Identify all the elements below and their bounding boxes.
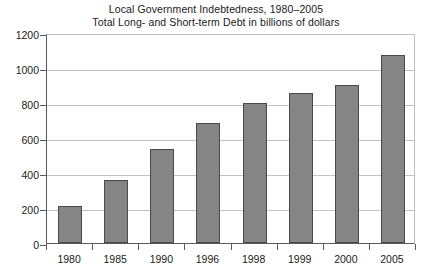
- bar-1998: [243, 103, 267, 243]
- bar-slot: [93, 35, 139, 243]
- y-tick-label: 600: [21, 134, 39, 146]
- x-tick-label: 1996: [184, 253, 230, 265]
- x-tick-2005: 2005: [369, 244, 415, 275]
- plot-area: [46, 34, 415, 244]
- x-axis: 19801985199019961998199920002005: [46, 244, 415, 275]
- bar-slot: [232, 35, 278, 243]
- y-axis: 020040060080010001200: [0, 34, 46, 245]
- x-tick-label: 2005: [369, 253, 415, 265]
- x-tick-1996: 1996: [184, 244, 230, 275]
- x-tick-1998: 1998: [231, 244, 277, 275]
- y-tick-label: 200: [21, 204, 39, 216]
- x-tick-label: 1985: [92, 253, 138, 265]
- x-tick-label: 1990: [138, 253, 184, 265]
- chart-title-block: Local Government Indebtedness, 1980–2005…: [0, 3, 432, 28]
- chart-title: Local Government Indebtedness, 1980–2005: [0, 3, 432, 16]
- x-tick-2000: 2000: [323, 244, 369, 275]
- x-tick-mark-origin: [46, 244, 47, 250]
- bars-layer: [47, 35, 414, 243]
- x-tick-1980: 1980: [46, 244, 92, 275]
- bar-slot: [278, 35, 324, 243]
- bar-slot: [47, 35, 93, 243]
- x-tick-1990: 1990: [138, 244, 184, 275]
- bar-1996: [196, 123, 220, 243]
- bar-1980: [58, 206, 82, 243]
- bar-chart: Local Government Indebtedness, 1980–2005…: [0, 0, 432, 275]
- x-tick-label: 1980: [46, 253, 92, 265]
- bar-1985: [104, 180, 128, 243]
- x-tick-label: 2000: [323, 253, 369, 265]
- y-tick-label: 1000: [16, 64, 39, 76]
- bar-2000: [335, 85, 359, 243]
- y-tick-label: 400: [21, 169, 39, 181]
- bar-slot: [324, 35, 370, 243]
- bar-slot: [185, 35, 231, 243]
- x-tick-1985: 1985: [92, 244, 138, 275]
- bar-2005: [381, 55, 405, 243]
- x-tick-mark: [415, 244, 416, 250]
- x-tick-label: 1998: [231, 253, 277, 265]
- bar-slot: [139, 35, 185, 243]
- chart-subtitle: Total Long- and Short-term Debt in billi…: [0, 16, 432, 29]
- bar-1999: [289, 93, 313, 244]
- y-tick-label: 1200: [16, 29, 39, 41]
- y-tick-label: 0: [33, 239, 39, 251]
- x-tick-label: 1999: [277, 253, 323, 265]
- y-tick-label: 800: [21, 99, 39, 111]
- bar-1990: [150, 149, 174, 244]
- bar-slot: [370, 35, 416, 243]
- x-tick-1999: 1999: [277, 244, 323, 275]
